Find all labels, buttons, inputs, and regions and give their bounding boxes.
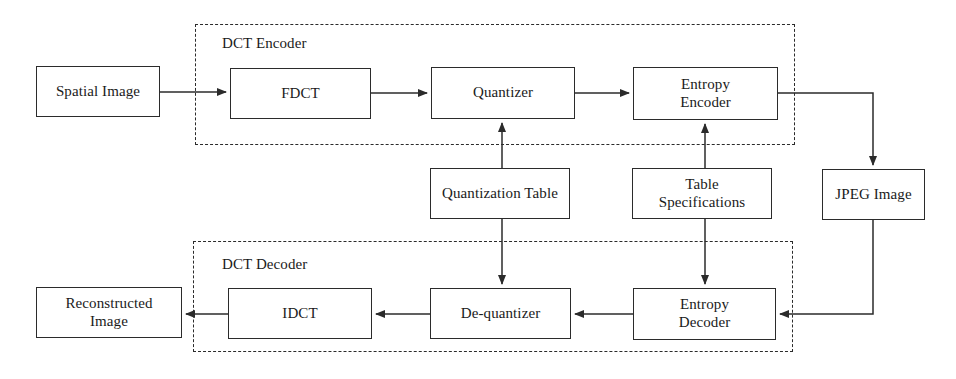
group-label-dct-encoder: DCT Encoder [222, 35, 307, 52]
node-label-quantization-table: Quantization Table [442, 185, 558, 203]
node-label-reconstructed-image-line2: Image [90, 313, 128, 331]
node-fdct[interactable]: FDCT [230, 68, 371, 119]
node-table-specifications[interactable]: Table Specifications [632, 168, 772, 219]
node-label-entropy-encoder-line2: Encoder [680, 94, 731, 112]
node-label-fdct: FDCT [281, 85, 320, 103]
node-spatial-image[interactable]: Spatial Image [36, 66, 160, 117]
node-label-entropy-encoder-line1: Entropy [681, 76, 730, 94]
node-jpeg-image[interactable]: JPEG Image [822, 169, 925, 220]
node-label-quantizer: Quantizer [473, 84, 533, 102]
node-reconstructed-image[interactable]: Reconstructed Image [36, 287, 182, 338]
node-entropy-decoder[interactable]: Entropy Decoder [633, 288, 776, 340]
connector-jpeg-to-entropy-decoder [780, 220, 873, 314]
node-label-table-specifications-line2: Specifications [659, 194, 745, 212]
node-quantization-table[interactable]: Quantization Table [430, 168, 570, 219]
node-label-spatial-image: Spatial Image [56, 83, 140, 101]
node-label-entropy-decoder-line1: Entropy [680, 296, 729, 314]
node-quantizer[interactable]: Quantizer [431, 67, 575, 119]
node-label-idct: IDCT [282, 305, 317, 323]
node-entropy-encoder[interactable]: Entropy Encoder [633, 67, 778, 120]
node-label-entropy-decoder-line2: Decoder [679, 314, 731, 332]
jpeg-codec-diagram: DCT Encoder DCT Decoder [0, 0, 956, 379]
group-label-dct-decoder: DCT Decoder [222, 256, 307, 273]
node-idct[interactable]: IDCT [228, 288, 372, 339]
node-label-jpeg-image: JPEG Image [835, 186, 911, 204]
node-de-quantizer[interactable]: De-quantizer [430, 288, 571, 339]
node-label-de-quantizer: De-quantizer [461, 305, 541, 323]
node-label-table-specifications-line1: Table [685, 176, 719, 194]
node-label-reconstructed-image-line1: Reconstructed [65, 295, 152, 313]
